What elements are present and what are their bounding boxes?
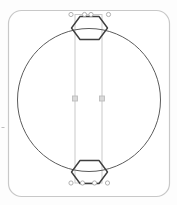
- anchor-handle[interactable]: [69, 181, 73, 185]
- artboard[interactable]: [9, 11, 170, 197]
- anchor-handle[interactable]: [82, 12, 86, 16]
- anchor-handle[interactable]: [80, 181, 84, 185]
- anchor-handle[interactable]: [89, 12, 93, 16]
- anchor-handle[interactable]: [69, 12, 73, 16]
- resize-handle[interactable]: [100, 96, 105, 101]
- drawing-canvas[interactable]: [0, 0, 177, 205]
- scene-svg: [0, 0, 177, 205]
- resize-handle[interactable]: [73, 96, 78, 101]
- anchor-handle[interactable]: [92, 181, 96, 185]
- anchor-handle[interactable]: [106, 12, 110, 16]
- anchor-handle[interactable]: [105, 181, 109, 185]
